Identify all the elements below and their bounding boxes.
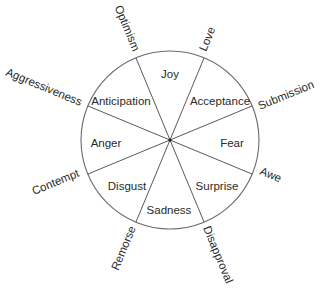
sector-label-sadness: Sadness: [147, 204, 192, 216]
sector-label-anger: Anger: [91, 137, 122, 149]
emotion-wheel: Joy Acceptance Fear Surprise Sadness Dis…: [0, 0, 323, 288]
sector-label-surprise: Surprise: [196, 180, 239, 192]
dyad-label-awe: Awe: [258, 165, 283, 185]
dyad-label-contempt: Contempt: [30, 166, 81, 196]
dyad-label-love: Love: [197, 25, 218, 53]
sector-label-acceptance: Acceptance: [190, 95, 250, 107]
dyad-label-disapproval: Disapproval: [201, 224, 235, 285]
sector-label-anticipation: Anticipation: [91, 95, 150, 107]
sector-label-fear: Fear: [220, 137, 244, 149]
wheel-center: [168, 138, 171, 141]
sector-label-disgust: Disgust: [108, 180, 147, 192]
sector-label-joy: Joy: [161, 68, 179, 80]
dyad-label-aggressiveness: Aggressiveness: [4, 66, 84, 108]
dyad-label-remorse: Remorse: [109, 224, 138, 272]
dyad-label-optimism: Optimism: [113, 3, 143, 52]
dyad-label-submission: Submission: [256, 78, 316, 112]
